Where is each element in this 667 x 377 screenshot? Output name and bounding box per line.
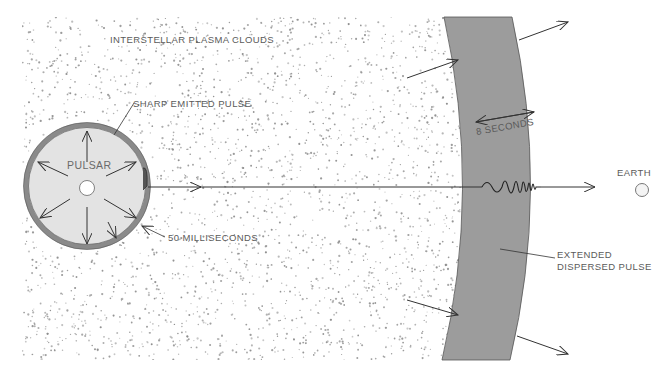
earth-label: EARTH <box>617 167 651 178</box>
sharp-pulse-label: SHARP EMITTED PULSE <box>133 98 251 109</box>
plasma-label: INTERSTELLAR PLASMA CLOUDS <box>110 34 274 45</box>
dispersed-label-line1: EXTENDED <box>557 249 612 260</box>
dispersed-label-line2: DISPERSED PULSE <box>557 261 652 272</box>
pulsar <box>24 123 151 250</box>
pulsar-label: PULSAR <box>67 160 111 171</box>
pulsar-core <box>80 181 95 196</box>
fifty-ms-label: 50 MILLISECONDS <box>168 232 258 243</box>
pulsar-dispersion-diagram <box>0 0 667 377</box>
earth-icon <box>636 184 649 197</box>
sharp-pulse-glyph <box>143 168 147 190</box>
dispersed-pulse-shell <box>442 17 531 360</box>
